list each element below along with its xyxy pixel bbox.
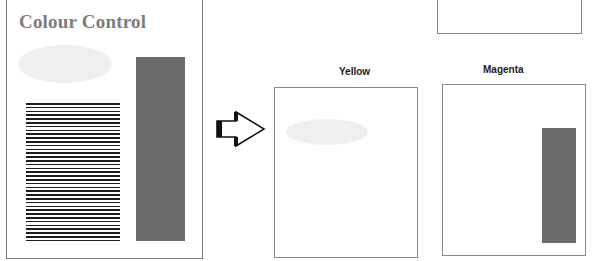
page-title: Colour Control <box>19 11 146 33</box>
yellow-separation-page <box>274 87 418 258</box>
light-ellipse <box>18 45 112 83</box>
magenta-separation-page <box>442 84 586 256</box>
light-ellipse <box>286 119 368 145</box>
partial-separation-page-top <box>437 0 582 34</box>
right-arrow-icon <box>214 110 266 148</box>
dark-bar <box>542 128 576 243</box>
horizontal-lines-block <box>26 103 120 243</box>
yellow-label: Yellow <box>339 66 370 77</box>
dark-bar <box>136 57 185 241</box>
magenta-label: Magenta <box>483 64 524 75</box>
source-page: Colour Control <box>6 0 203 259</box>
